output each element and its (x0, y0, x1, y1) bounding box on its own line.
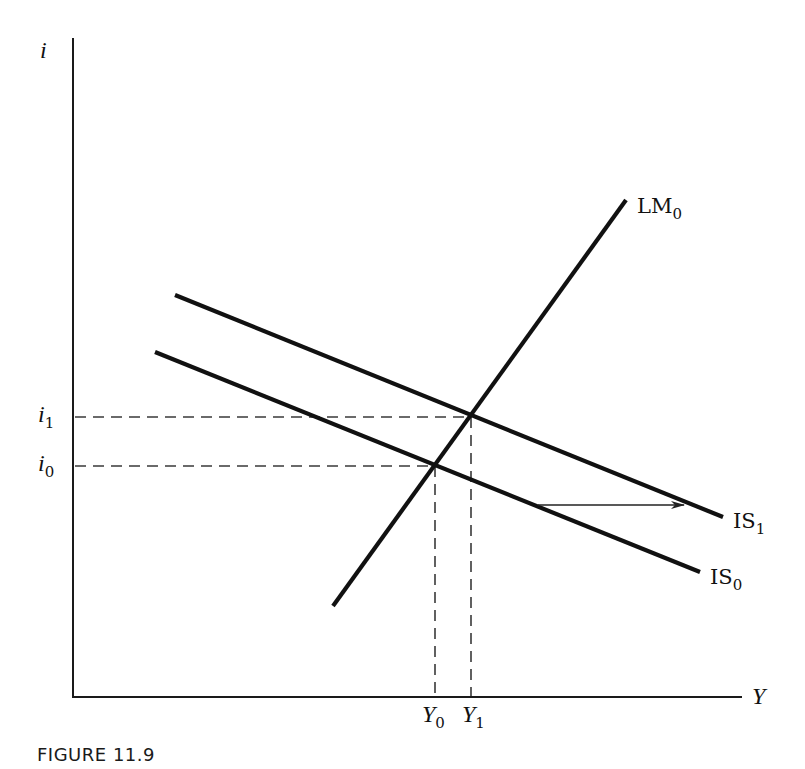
y1-tick-label: Y1 (462, 701, 485, 732)
y-axis-label: i (40, 37, 47, 63)
lm0-label: LM0 (637, 194, 682, 223)
axes (72, 38, 742, 697)
is-lm-diagram: i Y LM0 IS1 IS0 i1 i0 Y0 Y1 (0, 0, 805, 769)
figure-caption: FIGURE 11.9 (37, 744, 155, 765)
is0-curve (155, 352, 700, 572)
is1-curve (175, 295, 723, 517)
curves (155, 200, 723, 606)
is1-label: IS1 (733, 509, 765, 538)
guide-lines (75, 417, 471, 696)
y0-tick-label: Y0 (422, 701, 445, 732)
i1-tick-label: i1 (38, 401, 54, 432)
i0-tick-label: i0 (38, 450, 54, 481)
is0-label: IS0 (710, 565, 742, 594)
lm0-curve (333, 200, 626, 606)
x-axis-label: Y (752, 683, 768, 709)
